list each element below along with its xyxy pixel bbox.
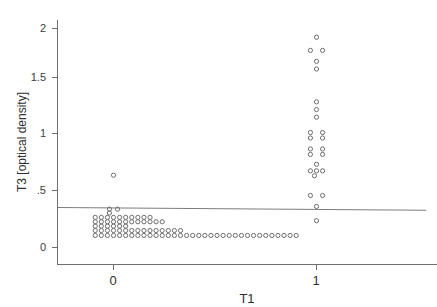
- data-point: [111, 233, 115, 237]
- y-axis-title: T3 [optical density]: [15, 92, 29, 192]
- data-point: [111, 224, 115, 228]
- y-tick-label-4: 2: [40, 22, 46, 34]
- plot-canvas: 2 1.5 1 .5 0 0 1 T3 [optical density] T1: [0, 0, 437, 307]
- data-point: [320, 48, 324, 52]
- data-point: [314, 219, 318, 223]
- data-point: [117, 224, 121, 228]
- data-point: [308, 193, 312, 197]
- data-point: [99, 233, 103, 237]
- data-point: [314, 169, 318, 173]
- data-point: [270, 233, 274, 237]
- scatter-plot-figure: 2 1.5 1 .5 0 0 1 T3 [optical density] T1: [0, 0, 437, 307]
- data-point: [314, 35, 318, 39]
- data-point: [264, 233, 268, 237]
- data-point: [142, 215, 146, 219]
- data-point: [227, 233, 231, 237]
- data-point: [320, 147, 324, 151]
- data-point: [320, 169, 324, 173]
- data-point: [239, 233, 243, 237]
- data-point: [117, 228, 121, 232]
- data-point: [320, 130, 324, 134]
- data-point: [215, 233, 219, 237]
- data-point: [93, 224, 97, 228]
- data-point: [294, 233, 298, 237]
- data-point: [233, 233, 237, 237]
- data-point: [314, 107, 318, 111]
- data-point: [154, 228, 158, 232]
- data-point: [166, 233, 170, 237]
- data-point: [142, 228, 146, 232]
- data-point: [117, 233, 121, 237]
- y-tick-label-1: .5: [37, 184, 46, 196]
- data-point: [314, 59, 318, 63]
- x-tick-label-1: 1: [312, 273, 319, 288]
- data-point: [111, 215, 115, 219]
- data-point: [172, 233, 176, 237]
- data-point: [99, 228, 103, 232]
- data-point: [142, 233, 146, 237]
- data-point: [124, 215, 128, 219]
- data-point: [154, 220, 158, 224]
- data-point: [124, 228, 128, 232]
- data-point: [99, 220, 103, 224]
- data-point: [160, 220, 164, 224]
- data-point: [282, 233, 286, 237]
- data-point: [178, 233, 182, 237]
- data-point: [105, 228, 109, 232]
- data-point: [209, 233, 213, 237]
- data-point: [221, 233, 225, 237]
- data-point: [130, 220, 134, 224]
- data-point: [136, 233, 140, 237]
- data-point: [178, 228, 182, 232]
- data-point: [320, 136, 324, 140]
- data-point: [314, 204, 318, 208]
- x-tick-label-0: 0: [109, 273, 116, 288]
- data-point: [258, 233, 262, 237]
- data-point: [130, 215, 134, 219]
- data-point: [136, 215, 140, 219]
- data-point: [308, 169, 312, 173]
- data-point: [197, 233, 201, 237]
- data-point: [136, 220, 140, 224]
- data-point: [124, 224, 128, 228]
- data-point: [288, 233, 292, 237]
- data-point: [308, 48, 312, 52]
- data-point: [314, 67, 318, 71]
- data-point: [111, 228, 115, 232]
- data-point: [308, 147, 312, 151]
- data-point: [320, 193, 324, 197]
- data-point: [312, 174, 316, 178]
- data-point: [166, 228, 170, 232]
- data-point: [314, 100, 318, 104]
- data-point: [308, 130, 312, 134]
- data-point: [148, 220, 152, 224]
- data-point-group: [93, 35, 325, 237]
- y-tick-label-2: 1: [40, 127, 46, 139]
- data-point: [111, 220, 115, 224]
- regression-fit-line: [58, 208, 426, 211]
- data-point: [93, 233, 97, 237]
- data-point: [93, 220, 97, 224]
- data-point: [314, 115, 318, 119]
- data-point: [154, 233, 158, 237]
- data-point: [172, 228, 176, 232]
- data-point: [308, 152, 312, 156]
- data-point: [130, 228, 134, 232]
- data-point: [111, 173, 115, 177]
- data-point: [117, 215, 121, 219]
- data-point: [93, 215, 97, 219]
- data-point: [191, 233, 195, 237]
- data-point: [105, 233, 109, 237]
- data-point: [105, 224, 109, 228]
- y-tick-label-0: 0: [40, 241, 46, 253]
- data-point: [93, 228, 97, 232]
- data-point: [105, 220, 109, 224]
- data-point: [117, 220, 121, 224]
- data-point: [276, 233, 280, 237]
- data-point: [160, 233, 164, 237]
- data-point: [314, 162, 318, 166]
- data-point: [99, 215, 103, 219]
- data-point: [148, 228, 152, 232]
- data-point: [105, 215, 109, 219]
- data-point: [124, 233, 128, 237]
